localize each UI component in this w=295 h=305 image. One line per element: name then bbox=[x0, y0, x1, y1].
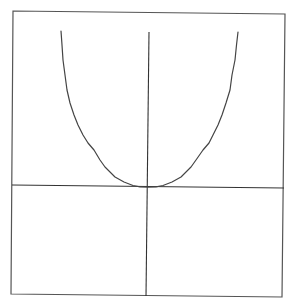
parabola-figure bbox=[0, 0, 295, 305]
y-axis bbox=[146, 32, 149, 296]
parabola-curve bbox=[61, 31, 238, 187]
